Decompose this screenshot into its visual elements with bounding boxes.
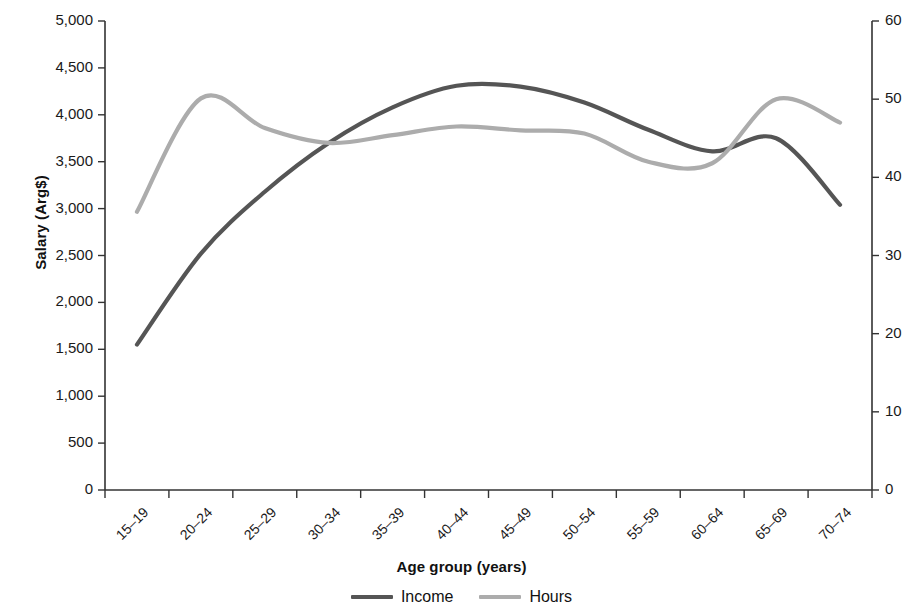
y-axis-tick-label: 4,000 [55, 105, 93, 122]
series-line-hours [137, 95, 840, 212]
chart-figure: Salary (Arg$) Age group (years) 05001,00… [0, 0, 923, 614]
series-line-income [137, 84, 840, 345]
legend-item-income: Income [351, 588, 453, 606]
y-axis-tick-label: 5,000 [55, 11, 93, 28]
secondary-y-axis-tick-label: 30 [885, 246, 902, 263]
x-axis-title: Age group (years) [0, 558, 923, 575]
y-axis-tick-label: 4,500 [55, 58, 93, 75]
secondary-y-axis-tick-label: 50 [885, 89, 902, 106]
legend-swatch-income [351, 595, 393, 599]
y-axis-tick-label: 1,000 [55, 386, 93, 403]
legend-swatch-hours [479, 595, 521, 599]
y-axis-tick-label: 500 [68, 433, 93, 450]
y-axis-tick-label: 0 [85, 480, 93, 497]
secondary-y-axis-tick-label: 10 [885, 402, 902, 419]
y-axis-tick-label: 1,500 [55, 339, 93, 356]
legend-label-hours: Hours [529, 588, 572, 606]
y-axis-tick-label: 2,500 [55, 246, 93, 263]
secondary-y-axis-tick-label: 40 [885, 167, 902, 184]
secondary-y-axis-tick-label: 0 [885, 480, 893, 497]
y-axis-tick-label: 2,000 [55, 292, 93, 309]
y-axis-tick-label: 3,500 [55, 152, 93, 169]
legend-label-income: Income [401, 588, 453, 606]
secondary-y-axis-tick-label: 20 [885, 324, 902, 341]
legend-item-hours: Hours [479, 588, 572, 606]
chart-legend: Income Hours [0, 588, 923, 606]
y-axis-tick-label: 3,000 [55, 199, 93, 216]
y-axis-title: Salary (Arg$) [32, 113, 49, 333]
secondary-y-axis-tick-label: 60 [885, 11, 902, 28]
